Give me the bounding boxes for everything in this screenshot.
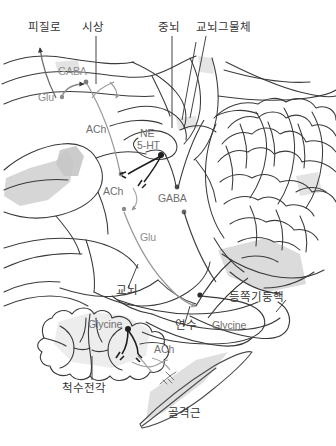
leader-pontine-reticular-2 <box>182 42 196 120</box>
label-medulla: 연수 <box>175 320 197 332</box>
label-ach-muscle: ACh <box>154 344 174 355</box>
pathway-ne-5ht-branching <box>120 152 164 188</box>
label-dorsal-column-nuclei: 등쪽기둥핵 <box>229 292 284 304</box>
label-ach-upper: ACh <box>86 124 106 135</box>
label-ne: NE <box>140 128 154 139</box>
label-pons: 교뇌 <box>116 285 138 297</box>
shaded-nuclei-group <box>4 56 322 420</box>
label-glycine-cord: Glycine <box>88 319 122 330</box>
leader-pontine-reticular <box>190 36 206 118</box>
pathway-gaba-cortex <box>92 82 117 98</box>
brain-diagram-svg <box>0 0 336 446</box>
label-midbrain: 중뇌 <box>158 22 180 34</box>
label-5ht: 5-HT <box>137 140 160 151</box>
figure-canvas: 피질로 시상 중뇌 교뇌그물체 GABA Glu ACh NE 5-HT ACh… <box>0 0 336 446</box>
pathway-cerebellar-afferents <box>178 120 248 318</box>
label-gaba-mid: GABA <box>158 193 187 204</box>
label-pontine-reticular-formation: 교뇌그물체 <box>196 22 251 34</box>
label-glycine-right: Glycine <box>212 320 246 331</box>
label-thalamus: 시상 <box>82 22 104 34</box>
label-cortical-tract: 피질로 <box>28 22 61 34</box>
label-glu-lower: Glu <box>140 232 156 243</box>
label-gaba-cortex: GABA <box>58 66 87 77</box>
label-skeletal-muscle: 골격근 <box>168 408 201 420</box>
label-ach-mid: ACh <box>103 186 123 197</box>
label-glu-cortex: Glu <box>38 92 54 103</box>
pathway-gaba-mid <box>165 154 186 214</box>
pathway-ach-mid <box>122 188 137 211</box>
label-anterior-horn: 척수전각 <box>62 383 106 395</box>
